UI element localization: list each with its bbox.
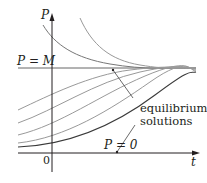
p-axis-arrow-icon: [50, 13, 55, 21]
y-axis-label: P: [40, 8, 50, 22]
origin-label: 0: [43, 154, 50, 167]
curve-decreasing-1: [43, 25, 196, 68]
equilibrium-label-zero: P = 0: [103, 138, 138, 152]
x-axis-label: t: [191, 155, 196, 169]
annotation-line-1: equilibrium: [140, 101, 207, 115]
annotation-dot-m: [112, 69, 114, 71]
logistic-direction-chart: P P = M P = 0 0 t equilibrium solutions: [0, 0, 207, 183]
annotation-line-2: solutions: [140, 114, 193, 128]
equilibrium-label-m: P = M: [16, 54, 56, 68]
curve-decreasing-2: [80, 18, 196, 68]
